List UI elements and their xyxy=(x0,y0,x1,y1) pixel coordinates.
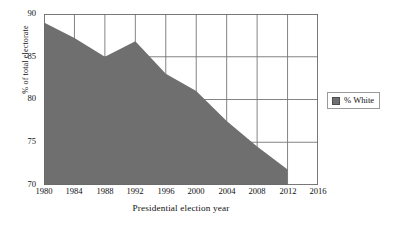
y-tick-label-85: 85 xyxy=(10,52,36,61)
x-tick-label-1984: 1984 xyxy=(57,186,91,196)
y-axis-title: % of total electorate xyxy=(21,0,30,130)
y-tick-label-75: 75 xyxy=(10,137,36,146)
area-chart-svg xyxy=(44,14,318,185)
y-tick-label-80: 80 xyxy=(10,94,36,103)
chart-figure: % of total electorate 90 85 80 75 70 xyxy=(0,0,393,229)
legend-swatch-pct-white xyxy=(332,97,340,105)
y-tick-label-90: 90 xyxy=(10,9,36,18)
x-tick-label-1988: 1988 xyxy=(88,186,122,196)
x-tick-label-2000: 2000 xyxy=(179,186,213,196)
x-tick-label-1992: 1992 xyxy=(118,186,152,196)
x-tick-label-2016: 2016 xyxy=(301,186,335,196)
legend-label-pct-white: % White xyxy=(344,96,374,105)
x-axis-title: Presidential election year xyxy=(44,203,318,213)
x-tick-label-1980: 1980 xyxy=(27,186,61,196)
plot-area xyxy=(44,14,318,185)
chart-legend: % White xyxy=(327,92,380,109)
x-tick-label-2004: 2004 xyxy=(210,186,244,196)
x-tick-label-1996: 1996 xyxy=(149,186,183,196)
x-tick-label-2008: 2008 xyxy=(240,186,274,196)
x-tick-label-2012: 2012 xyxy=(271,186,305,196)
